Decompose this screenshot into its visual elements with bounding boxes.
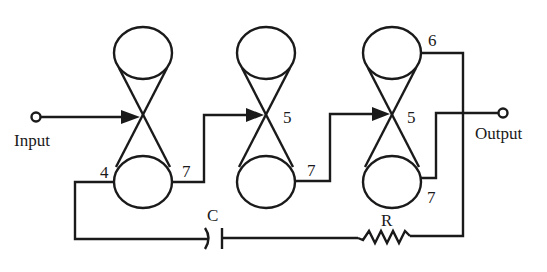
resistor-symbol: [358, 231, 410, 243]
stage-3-pin-5-label: 5: [407, 108, 416, 127]
output-wire: [421, 113, 499, 178]
stage-3-top-ellipse: [363, 27, 421, 79]
stage-3-bottom-ellipse: [363, 156, 421, 208]
circuit-svg: Input Output C R 4 7 5 7 6 5 7: [0, 0, 547, 272]
stage-2-pin-7-label: 7: [307, 161, 316, 180]
stage3-arrow-icon: [372, 107, 390, 121]
stage-1-top-ellipse: [114, 27, 172, 79]
feedback-wire-left: [75, 182, 209, 239]
input-terminal: [32, 113, 41, 122]
stage-2-top-ellipse: [237, 27, 295, 79]
stage-2-pin-5-label: 5: [283, 108, 292, 127]
stage2-arrow-icon: [246, 108, 264, 122]
capacitor-label: C: [207, 206, 218, 225]
output-terminal: [499, 109, 508, 118]
resistor-label: R: [381, 211, 393, 230]
stage-2-bottom-ellipse: [237, 156, 295, 208]
stage-3-pin-7-label: 7: [427, 188, 436, 207]
stage-1-pin-4-label: 4: [100, 163, 109, 182]
input-arrow-icon: [121, 110, 140, 124]
input-label: Input: [14, 131, 50, 150]
output-label: Output: [475, 124, 523, 143]
circuit-diagram: Input Output C R 4 7 5 7 6 5 7: [0, 0, 547, 272]
stage-3-pin-6-label: 6: [428, 31, 437, 50]
stage-1-pin-7-label: 7: [182, 162, 191, 181]
stage-1-bottom-ellipse: [114, 156, 172, 208]
